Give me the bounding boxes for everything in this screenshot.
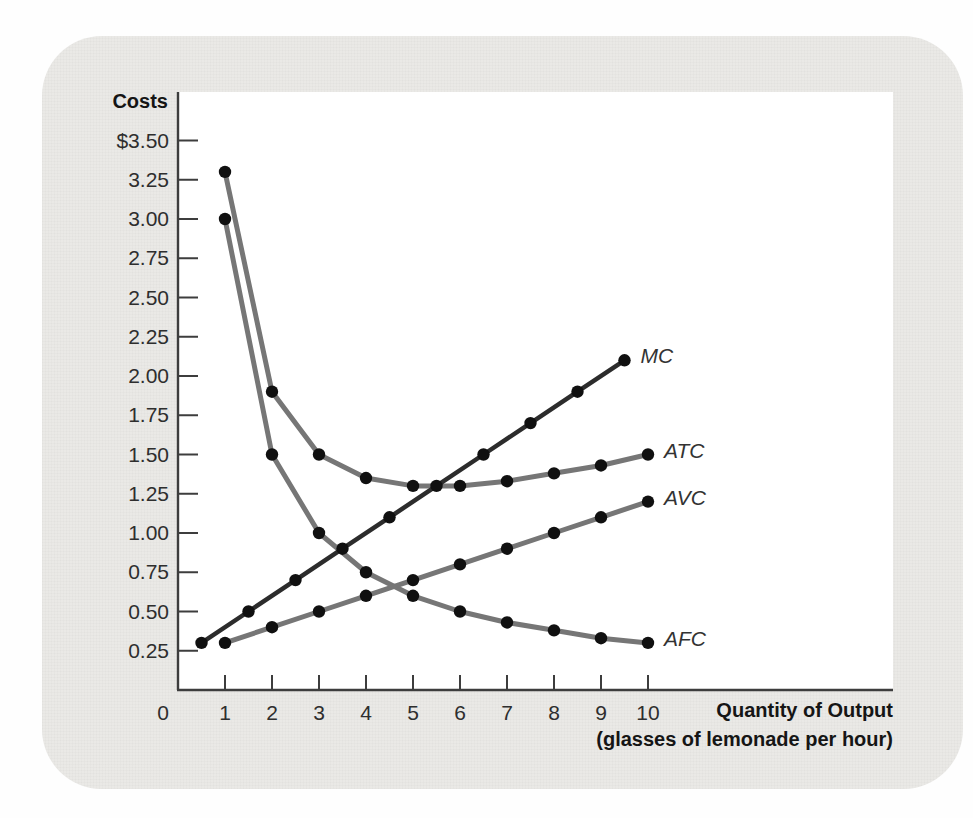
y-tick-label: 0.25 [128,639,169,662]
curve-point-afc [595,632,607,644]
y-tick-label: 3.00 [128,207,169,230]
curve-point-atc [313,448,325,460]
curve-point-afc [407,590,419,602]
x-tick-label: 5 [407,701,419,724]
curve-point-avc [219,637,231,649]
curve-point-avc [548,527,560,539]
curve-label-afc: AFC [662,627,707,650]
curve-point-mc [477,448,489,460]
y-tick-label: 2.75 [128,246,169,269]
curve-label-atc: ATC [662,439,705,462]
curve-point-afc [642,637,654,649]
curve-point-mc [383,511,395,523]
curve-point-afc [501,616,513,628]
x-tick-label: 4 [360,701,372,724]
curve-point-atc [266,386,278,398]
x-axis-title-line2: (glasses of lemonade per hour) [596,728,893,750]
x-tick-label: 3 [313,701,325,724]
curve-point-atc [360,472,372,484]
curve-point-atc [595,459,607,471]
cost-curves-chart: $3.503.253.002.752.502.252.001.751.501.2… [0,0,973,818]
curve-label-avc: AVC [662,486,707,509]
y-tick-label: 2.00 [128,364,169,387]
curve-point-mc [524,417,536,429]
curve-point-avc [266,621,278,633]
curve-point-afc [313,527,325,539]
x-axis-title-line1: Quantity of Output [716,699,893,721]
curve-point-avc [313,605,325,617]
x-tick-label: 6 [454,701,466,724]
curve-point-atc [219,166,231,178]
curve-point-avc [454,558,466,570]
curve-point-afc [219,213,231,225]
curve-point-avc [501,543,513,555]
curve-point-mc [195,637,207,649]
curve-point-avc [407,574,419,586]
page: $3.503.253.002.752.502.252.001.751.501.2… [0,0,973,818]
x-tick-label: 10 [636,701,659,724]
y-tick-label: 3.25 [128,168,169,191]
y-tick-label: 1.00 [128,521,169,544]
curve-point-mc [336,543,348,555]
curve-point-avc [595,511,607,523]
curve-point-avc [360,590,372,602]
y-tick-label: 0.50 [128,600,169,623]
curve-point-atc [454,480,466,492]
y-tick-label: 1.25 [128,482,169,505]
x-tick-label: 9 [595,701,607,724]
x-tick-label: 7 [501,701,513,724]
x-tick-label: 8 [548,701,560,724]
y-tick-label: 2.50 [128,286,169,309]
curve-point-mc [289,574,301,586]
curve-point-mc [618,354,630,366]
y-tick-label: 1.75 [128,403,169,426]
y-tick-label: 2.25 [128,325,169,348]
curve-point-afc [548,624,560,636]
plot-area [177,92,893,690]
curve-point-afc [266,448,278,460]
x-tick-label: 2 [266,701,278,724]
curve-point-afc [360,566,372,578]
curve-point-mc [571,386,583,398]
curve-point-atc [642,448,654,460]
y-tick-label: $3.50 [116,129,169,152]
y-tick-label: 1.50 [128,443,169,466]
curve-point-atc [548,467,560,479]
y-tick-label: 0.75 [128,560,169,583]
curve-point-atc [407,480,419,492]
y-axis-title: Costs [112,90,168,112]
curve-point-afc [454,605,466,617]
x-tick-label: 0 [157,701,169,724]
curve-point-avc [642,495,654,507]
x-tick-label: 1 [219,701,231,724]
curve-point-atc [501,475,513,487]
curve-point-mc [430,480,442,492]
curve-point-mc [242,605,254,617]
curve-label-mc: MC [641,344,674,367]
